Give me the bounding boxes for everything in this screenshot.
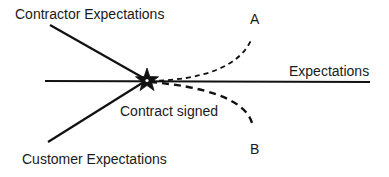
expectations-line — [45, 81, 370, 82]
outcome-a-curve — [150, 38, 252, 81]
contractor-expectations-line — [50, 25, 147, 80]
contract-signed-label: Contract signed — [120, 104, 218, 118]
star-center-dot — [145, 79, 148, 82]
customer-expectations-label: Customer Expectations — [22, 152, 167, 166]
expectations-label: Expectations — [289, 64, 369, 78]
outcome-b-label: B — [250, 142, 259, 156]
contractor-expectations-label: Contractor Expectations — [15, 7, 164, 21]
outcome-a-label: A — [250, 12, 259, 26]
